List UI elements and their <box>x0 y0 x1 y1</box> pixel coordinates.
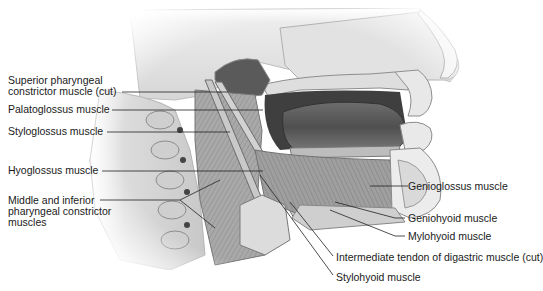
label-mylohyoid: Mylohyoid muscle <box>408 231 491 242</box>
label-styloglossus: Styloglossus muscle <box>8 126 103 137</box>
label-stylohyoid: Stylohyoid muscle <box>336 272 421 283</box>
label-middle-inferior-pharyngeal-constrictor: Middle and inferior pharyngeal constrict… <box>8 195 111 228</box>
label-geniohyoid: Geniohyoid muscle <box>408 213 497 224</box>
label-superior-pharyngeal-constrictor: Superior pharyngeal constrictor muscle (… <box>8 75 117 97</box>
label-hyoglossus: Hyoglossus muscle <box>8 165 98 176</box>
label-genioglossus: Genioglossus muscle <box>408 181 508 192</box>
label-palatoglossus: Palatoglossus muscle <box>8 104 110 115</box>
label-intermediate-tendon-digastric: Intermediate tendon of digastric muscle … <box>336 252 543 263</box>
